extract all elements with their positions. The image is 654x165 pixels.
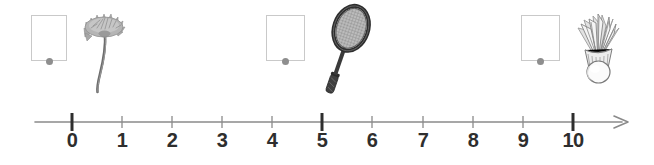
tick-label-4: 4 (252, 128, 292, 152)
tick-label-6: 6 (352, 128, 392, 152)
answer-box-1[interactable] (31, 15, 67, 61)
tick-label-2: 2 (152, 128, 192, 152)
answer-box-2[interactable] (266, 15, 305, 61)
answer-box-3[interactable] (521, 15, 560, 61)
answer-box-group-2 (266, 15, 305, 61)
tick-label-7: 7 (403, 128, 443, 152)
box-anchor-dot-3 (537, 58, 544, 65)
tick-label-8: 8 (453, 128, 493, 152)
picture-flower (78, 6, 130, 94)
tick-label-9: 9 (503, 128, 543, 152)
tick-label-10: 10 (553, 128, 593, 152)
answer-box-group-1 (31, 15, 67, 61)
tick-label-3: 3 (202, 128, 242, 152)
box-anchor-dot-2 (282, 58, 289, 65)
number-line: 012345678910 (0, 100, 654, 165)
worksheet-canvas: 012345678910 (0, 0, 654, 165)
tick-label-1: 1 (102, 128, 142, 152)
box-anchor-dot-1 (46, 58, 53, 65)
picture-badminton-racket (314, 4, 372, 100)
picture-shuttlecock (569, 6, 627, 90)
tick-label-0: 0 (52, 128, 92, 152)
answer-box-group-3 (521, 15, 560, 61)
tick-label-5: 5 (302, 128, 342, 152)
